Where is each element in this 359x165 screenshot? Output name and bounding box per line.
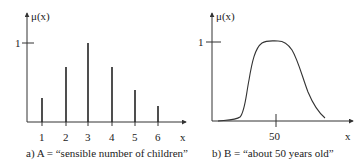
y-tick-label-right: 1 <box>198 36 204 48</box>
chart-b-about-50-years-old: 1 μ(x) 50 x b) B = “about 50 years old” <box>198 10 353 160</box>
x-tick-label: 3 <box>85 131 91 143</box>
chart-a-sensible-number-of-children: 1 μ(x) 1 2 3 4 5 6 x a) A = “sensibl <box>15 10 188 160</box>
x-axis-label-right: x <box>345 130 351 142</box>
x-tick-label-50: 50 <box>269 130 281 142</box>
x-tick-label: 5 <box>132 131 138 143</box>
membership-curve <box>218 41 325 121</box>
x-axis-label-left: x <box>180 131 186 143</box>
caption-b: b) B = “about 50 years old” <box>212 147 334 160</box>
x-tick-label: 2 <box>63 131 69 143</box>
x-tick-label: 6 <box>155 131 161 143</box>
y-axis-label-left: μ(x) <box>31 10 50 23</box>
caption-a: a) A = “sensible number of children” <box>26 147 188 160</box>
x-tick-label: 4 <box>109 131 115 143</box>
membership-function-figure: 1 μ(x) 1 2 3 4 5 6 x a) A = “sensibl <box>0 0 359 165</box>
bars <box>42 43 158 126</box>
x-tick-label: 1 <box>39 131 45 143</box>
y-tick-label-left: 1 <box>15 37 21 49</box>
y-axis-label-right: μ(x) <box>216 10 235 23</box>
x-tick-labels-left: 1 2 3 4 5 6 x <box>39 131 186 143</box>
